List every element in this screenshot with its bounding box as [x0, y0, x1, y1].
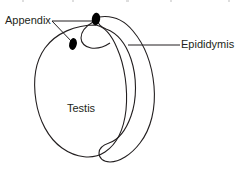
- appendix-label: Appendix: [5, 14, 51, 26]
- anatomy-diagram: Appendix Epididymis Testis: [0, 0, 241, 181]
- diagram-page: Appendix Epididymis Testis: [0, 0, 241, 181]
- epididymis-label: Epididymis: [181, 38, 235, 50]
- diagram-background: [0, 0, 241, 181]
- testis-label: Testis: [67, 102, 96, 114]
